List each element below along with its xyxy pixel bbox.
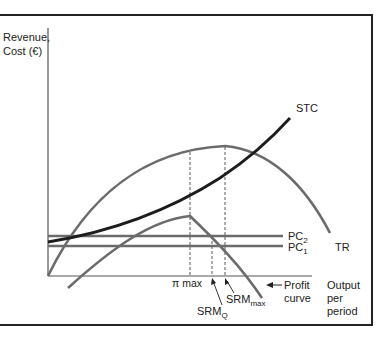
y-axis-label-line1: Revenue,	[3, 31, 50, 43]
pi-max-label: π max	[172, 277, 203, 289]
srm-q-pointer-head	[211, 278, 216, 285]
srm-q-label: SRMQ	[197, 305, 228, 320]
x-axis-label-line3: period	[327, 305, 358, 317]
x-axis-label-line2: per	[327, 292, 343, 304]
srm-q-pointer	[213, 281, 222, 305]
profit-label-line2: curve	[284, 292, 311, 304]
profit-curve	[68, 216, 262, 298]
y-axis-label-line2: Cost (€)	[3, 45, 42, 57]
tr-curve	[48, 146, 330, 276]
stc-label: STC	[296, 102, 318, 114]
revenue-cost-diagram: Revenue, Cost (€) STC TR PC2 PC1 Profit …	[0, 0, 386, 338]
profit-arrow-head	[266, 282, 273, 288]
profit-label-line1: Profit	[284, 279, 310, 291]
stc-curve	[48, 118, 290, 242]
x-axis-label-line1: Output	[327, 279, 360, 291]
tr-label: TR	[335, 241, 350, 253]
